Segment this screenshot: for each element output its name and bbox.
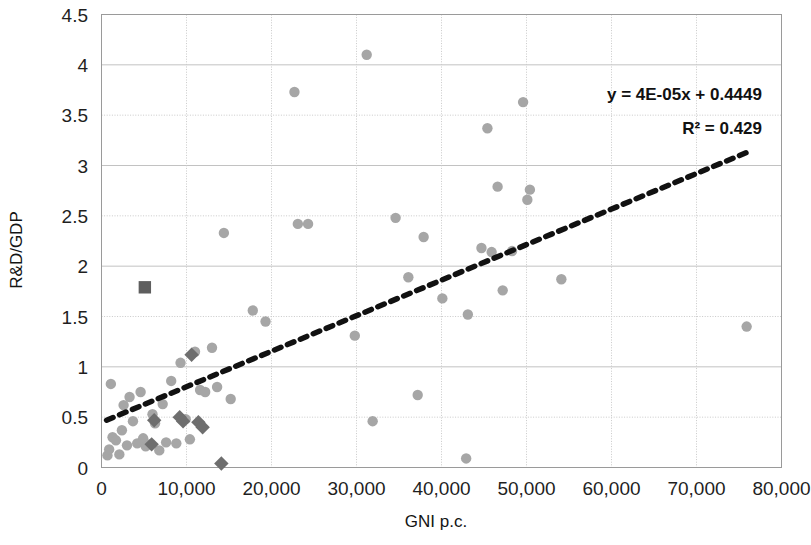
data-point (498, 285, 508, 295)
data-point (185, 434, 195, 444)
y-tick-label: 2.5 (62, 206, 88, 227)
data-point (293, 219, 303, 229)
data-point (226, 394, 236, 404)
data-point (461, 453, 471, 463)
data-point (219, 228, 229, 238)
data-point (212, 382, 222, 392)
data-point (492, 181, 502, 191)
gridlines-vertical (187, 15, 697, 468)
data-point (350, 330, 360, 340)
data-point (260, 316, 270, 326)
data-point (104, 444, 114, 454)
data-points (102, 50, 752, 471)
y-tick-label: 1 (77, 357, 88, 378)
data-point (437, 293, 447, 303)
data-point (207, 343, 217, 353)
data-point (124, 392, 134, 402)
data-point (128, 416, 138, 426)
x-tick-label: 70,000 (667, 478, 725, 499)
x-axis-tick-labels: 010,00020,00030,00040,00050,00060,00070,… (96, 478, 810, 499)
data-point (111, 435, 121, 445)
data-point (122, 440, 132, 450)
y-tick-label: 2 (77, 256, 88, 277)
data-point (463, 309, 473, 319)
data-point (556, 274, 566, 284)
data-point (200, 387, 210, 397)
data-point (413, 390, 423, 400)
data-point (362, 50, 372, 60)
data-point (741, 321, 751, 331)
data-point (303, 219, 313, 229)
data-point (214, 456, 228, 470)
data-point (135, 387, 145, 397)
x-tick-label: 30,000 (327, 478, 385, 499)
data-point (171, 438, 181, 448)
data-point (482, 123, 492, 133)
data-point (106, 379, 116, 389)
x-tick-label: 50,000 (497, 478, 555, 499)
trendline (107, 150, 752, 420)
data-point (518, 97, 528, 107)
y-tick-label: 1.5 (62, 307, 88, 328)
x-tick-label: 20,000 (242, 478, 300, 499)
data-point (289, 87, 299, 97)
y-tick-label: 0 (77, 458, 88, 479)
scatter-chart: 00.511.522.533.544.5 010,00020,00030,000… (0, 0, 811, 545)
data-point (367, 416, 377, 426)
data-point (525, 184, 535, 194)
data-point (161, 437, 171, 447)
y-tick-label: 3.5 (62, 105, 88, 126)
x-tick-label: 80,000 (752, 478, 810, 499)
y-axis-title: R&D/GDP (7, 211, 26, 288)
x-axis-title: GNI p.c. (405, 512, 467, 531)
data-point (114, 449, 124, 459)
y-axis-tick-labels: 00.511.522.533.544.5 (62, 5, 89, 479)
y-tick-label: 3 (77, 156, 88, 177)
data-point (522, 195, 532, 205)
y-tick-label: 4 (77, 55, 88, 76)
trendline-equation-label: y = 4E-05x + 0.4449 (607, 85, 762, 104)
data-point (403, 272, 413, 282)
data-point (418, 232, 428, 242)
chart-canvas: 00.511.522.533.544.5 010,00020,00030,000… (0, 0, 811, 545)
data-point (390, 213, 400, 223)
x-tick-label: 10,000 (157, 478, 215, 499)
data-point (175, 358, 185, 368)
data-point (139, 281, 151, 293)
data-point (248, 305, 258, 315)
r-squared-label: R² = 0.429 (682, 119, 762, 138)
y-tick-label: 4.5 (62, 5, 88, 26)
x-tick-label: 60,000 (582, 478, 640, 499)
x-tick-label: 0 (96, 478, 107, 499)
data-point (476, 243, 486, 253)
data-point (166, 376, 176, 386)
y-tick-label: 0.5 (62, 407, 88, 428)
x-tick-label: 40,000 (412, 478, 470, 499)
data-point (117, 425, 127, 435)
